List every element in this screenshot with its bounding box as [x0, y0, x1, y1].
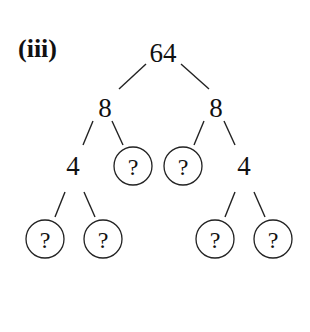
edge-4l-q1 [55, 192, 65, 217]
edge-root-right [181, 64, 209, 89]
node-l1-right: 8 [209, 93, 223, 123]
edge-4r-q1 [225, 192, 235, 217]
node-l2-1: 4 [66, 151, 80, 181]
edge-8l-4 [83, 121, 93, 145]
edge-8l-q [112, 121, 123, 145]
edge-root-left [119, 64, 146, 89]
node-l3-4: ? [268, 227, 279, 253]
node-root: 64 [150, 38, 178, 68]
node-l3-3: ? [210, 227, 221, 253]
node-l3-2: ? [98, 227, 109, 253]
edge-8r-q [194, 121, 204, 145]
edge-8r-4 [224, 121, 235, 145]
node-l2-3: ? [178, 154, 189, 180]
factor-tree-diagram: (iii) 64 8 8 4 ? ? 4 ? ? ? ? [0, 0, 310, 332]
node-l2-4: 4 [237, 151, 251, 181]
tree-edges [55, 64, 265, 217]
edge-4r-q2 [254, 192, 265, 217]
node-l3-1: ? [40, 227, 51, 253]
part-label: (iii) [18, 34, 57, 63]
node-l2-2: ? [128, 154, 139, 180]
edge-4l-q2 [84, 192, 95, 217]
node-l1-left: 8 [98, 93, 112, 123]
